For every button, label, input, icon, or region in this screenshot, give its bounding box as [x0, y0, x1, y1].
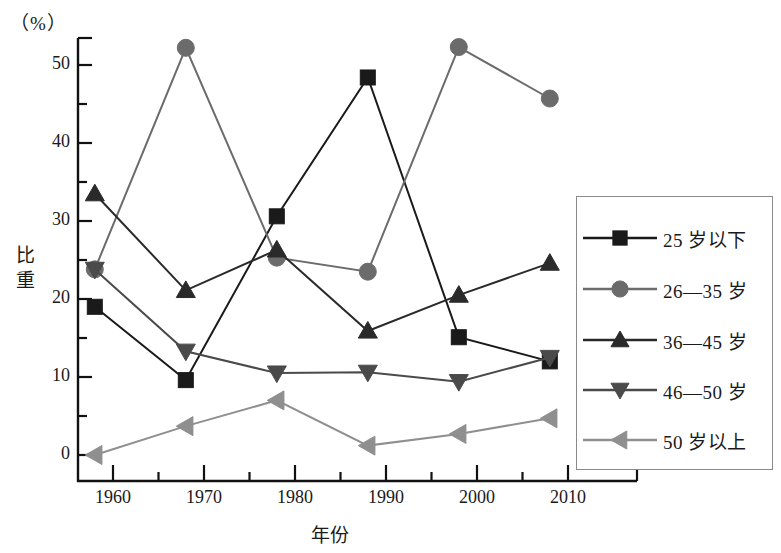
legend: 25 岁以下26—35 岁36—45 岁46—50 岁50 岁以上	[576, 196, 773, 470]
data-point-marker	[267, 366, 286, 383]
series-lines	[85, 39, 559, 465]
series-5	[85, 391, 557, 465]
data-point-marker	[176, 417, 193, 436]
legend-item-label: 25 岁以下	[663, 225, 747, 252]
x-tick-label: 1970	[164, 487, 244, 508]
legend-marker-icon	[577, 325, 663, 355]
data-point-marker	[360, 70, 375, 85]
data-point-marker	[177, 39, 194, 56]
data-point-marker	[540, 254, 559, 271]
legend-marker-icon	[577, 223, 663, 253]
y-tick-label: 40	[20, 131, 70, 152]
y-tick-label: 30	[20, 209, 70, 230]
y-tick-label: 10	[20, 365, 70, 386]
series-4	[85, 262, 559, 391]
legend-item-5[interactable]: 50 岁以上	[577, 425, 774, 455]
legend-item-1[interactable]: 25 岁以下	[577, 223, 774, 253]
y-tick-label: 50	[20, 53, 70, 74]
data-point-marker	[449, 424, 466, 443]
y-tick-label: 20	[20, 287, 70, 308]
series-2	[86, 39, 558, 281]
legend-item-3[interactable]: 36—45 岁	[577, 325, 774, 355]
x-tick-label: 1980	[255, 487, 335, 508]
chart-container: （%） 比重 年份 010203040501960197019801990200…	[0, 0, 781, 553]
data-point-marker	[358, 436, 375, 455]
data-point-marker	[85, 446, 102, 465]
data-point-marker	[450, 39, 467, 56]
data-point-marker	[359, 263, 376, 280]
data-point-marker	[540, 409, 557, 428]
legend-item-label: 26—35 岁	[663, 276, 747, 303]
x-tick-label: 2010	[528, 487, 608, 508]
legend-item-label: 50 岁以上	[663, 427, 747, 454]
x-tick-label: 1960	[73, 487, 153, 508]
legend-item-label: 36—45 岁	[663, 327, 747, 354]
legend-marker-icon	[577, 274, 663, 304]
data-point-marker	[85, 184, 104, 201]
legend-item-4[interactable]: 46—50 岁	[577, 375, 774, 405]
x-tick-label: 1990	[346, 487, 426, 508]
x-tick-label: 2000	[437, 487, 517, 508]
legend-item-label: 46—50 岁	[663, 377, 747, 404]
data-point-marker	[451, 330, 466, 345]
legend-item-2[interactable]: 26—35 岁	[577, 274, 774, 304]
legend-marker-icon	[577, 375, 663, 405]
data-point-marker	[87, 299, 102, 314]
data-point-marker	[449, 375, 468, 392]
data-point-marker	[541, 90, 558, 107]
data-point-marker	[178, 373, 193, 388]
y-tick-label: 0	[20, 443, 70, 464]
data-point-marker	[269, 209, 284, 224]
data-point-marker	[267, 391, 284, 410]
series-3	[85, 184, 559, 338]
data-point-marker	[449, 286, 468, 303]
legend-marker-icon	[577, 425, 663, 455]
